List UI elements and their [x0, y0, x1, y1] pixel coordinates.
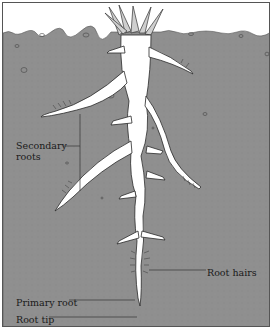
label-secondary-roots-line2: roots [16, 151, 67, 162]
label-secondary-roots: Secondary roots [16, 140, 67, 162]
label-root-hairs: Root hairs [207, 267, 257, 278]
plant-leaves [105, 5, 163, 35]
label-secondary-roots-line1: Secondary [16, 140, 67, 151]
label-root-tip: Root tip [16, 314, 54, 325]
label-primary-root: Primary root [16, 297, 77, 308]
diagram-frame: Secondary roots Root hairs Primary root … [2, 2, 270, 327]
root-system-illustration [3, 3, 270, 327]
